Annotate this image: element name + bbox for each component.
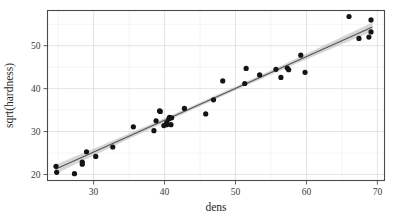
x-tick-label: 40 — [160, 187, 170, 197]
data-point — [169, 115, 174, 120]
data-point — [80, 159, 85, 164]
x-axis-ticks: 3040506070 — [89, 181, 383, 197]
data-point — [203, 111, 208, 116]
y-axis-title: sqrt(hardness) — [3, 63, 16, 128]
data-point — [72, 171, 77, 176]
x-tick-label: 50 — [231, 187, 241, 197]
y-tick-label: 50 — [31, 41, 41, 51]
y-tick-label: 40 — [31, 84, 41, 94]
data-point — [356, 36, 361, 41]
data-point — [220, 78, 225, 83]
data-point — [366, 35, 371, 40]
scatter-plot-figure: 3040506070 20304050 dens sqrt(hardness) — [0, 0, 406, 221]
data-point — [368, 17, 373, 22]
data-point — [286, 67, 291, 72]
data-point — [53, 164, 58, 169]
data-point — [346, 14, 351, 19]
x-tick-label: 70 — [373, 187, 383, 197]
data-point — [257, 72, 262, 77]
data-point — [110, 144, 115, 149]
x-axis-title: dens — [205, 201, 227, 213]
y-tick-label: 20 — [31, 170, 41, 180]
data-point — [182, 106, 187, 111]
data-point — [242, 81, 247, 86]
data-point — [168, 122, 173, 127]
data-point — [158, 109, 163, 114]
data-point — [93, 154, 98, 159]
data-point — [84, 149, 89, 154]
data-point — [273, 67, 278, 72]
data-point — [153, 118, 158, 123]
y-tick-label: 30 — [31, 127, 41, 137]
data-point — [368, 29, 373, 34]
data-point — [302, 70, 307, 75]
data-point — [54, 170, 59, 175]
chart-canvas: 3040506070 20304050 dens sqrt(hardness) — [0, 0, 406, 221]
data-point — [244, 66, 249, 71]
data-point — [211, 97, 216, 102]
data-point — [131, 124, 136, 129]
x-tick-label: 60 — [302, 187, 312, 197]
x-tick-label: 30 — [89, 187, 99, 197]
data-point — [278, 75, 283, 80]
y-axis-ticks: 20304050 — [31, 41, 48, 180]
data-point — [151, 128, 156, 133]
data-point — [298, 53, 303, 58]
